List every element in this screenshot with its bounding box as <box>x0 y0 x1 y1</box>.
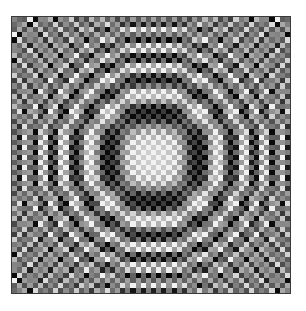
zone-plate-heatmap <box>12 17 290 293</box>
zone-plate-figure <box>11 16 291 294</box>
image-canvas <box>0 0 306 311</box>
